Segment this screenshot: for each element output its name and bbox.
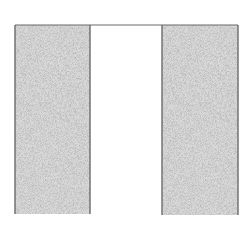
left-column bbox=[15, 25, 90, 214]
right-column bbox=[162, 25, 238, 215]
diagram bbox=[0, 0, 247, 231]
